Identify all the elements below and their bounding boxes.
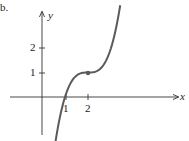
y-tick-label-2: 2 [30,42,36,53]
x-tick-label-1: 1 [63,103,69,114]
figure-label: b. [0,2,8,13]
x-axis-label: x [180,91,185,102]
curve [50,5,120,141]
inflection-point [86,71,90,75]
y-tick-label-1: 1 [30,67,36,78]
y-axis-label: y [48,10,53,21]
x-tick-label-2: 2 [85,103,91,114]
function-graph [0,0,189,141]
